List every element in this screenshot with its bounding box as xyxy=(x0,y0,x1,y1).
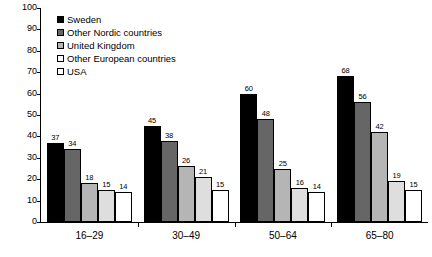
x-axis-tick-mark xyxy=(235,223,236,227)
x-axis-category-label: 65–80 xyxy=(331,230,428,242)
bar-value-label: 16 xyxy=(296,178,304,187)
bar[interactable] xyxy=(212,190,229,222)
legend-swatch-icon xyxy=(57,42,64,49)
y-axis-tick-mark xyxy=(37,136,40,137)
bar-item[interactable]: 56 xyxy=(354,8,371,222)
y-axis-tick-label: 50 xyxy=(27,109,37,120)
legend-item-label: United Kingdom xyxy=(67,40,135,51)
y-axis-tick-label: 30 xyxy=(27,152,37,163)
bar-item[interactable]: 48 xyxy=(257,8,274,222)
bar-group-bars: 6856421915 xyxy=(337,8,422,222)
legend-item[interactable]: Other European countries xyxy=(57,52,176,65)
y-axis-tick-label: 90 xyxy=(27,23,37,34)
y-axis-tick-mark xyxy=(37,115,40,116)
bar[interactable] xyxy=(98,190,115,222)
legend-item[interactable]: Sweden xyxy=(57,13,176,26)
y-axis-tick-label: 10 xyxy=(27,195,37,206)
x-axis-tick-mark xyxy=(331,223,332,227)
legend-swatch-icon xyxy=(57,16,64,23)
bar-value-label: 15 xyxy=(216,180,224,189)
bar-value-label: 38 xyxy=(165,131,173,140)
y-axis-tick-mark xyxy=(37,94,40,95)
bar-value-label: 68 xyxy=(341,66,349,75)
bar[interactable] xyxy=(291,188,308,222)
bar-item[interactable]: 19 xyxy=(388,8,405,222)
bar-value-label: 42 xyxy=(375,122,383,131)
bar[interactable] xyxy=(388,181,405,222)
bar[interactable] xyxy=(337,76,354,222)
bar-value-label: 25 xyxy=(279,159,287,168)
legend-item[interactable]: Other Nordic countries xyxy=(57,26,176,39)
bar-chart: 1009080706050403020100 37341815144538262… xyxy=(0,0,432,257)
legend-swatch-icon xyxy=(57,29,64,36)
y-axis-tick-mark xyxy=(37,179,40,180)
bar-group-bars: 6048251614 xyxy=(240,8,325,222)
y-axis-tick-mark xyxy=(37,8,40,9)
bar[interactable] xyxy=(81,183,98,222)
x-axis-category-label: 16–29 xyxy=(41,230,138,242)
y-axis-tick-label: 60 xyxy=(27,88,37,99)
y-axis-tick-label: 70 xyxy=(27,66,37,77)
bar-item[interactable]: 68 xyxy=(337,8,354,222)
bar-value-label: 26 xyxy=(182,156,190,165)
bar[interactable] xyxy=(257,119,274,222)
y-axis-tick-mark xyxy=(37,201,40,202)
bar-item[interactable]: 14 xyxy=(308,8,325,222)
bar[interactable] xyxy=(274,169,291,223)
y-axis-tick-mark xyxy=(37,158,40,159)
bar-item[interactable]: 16 xyxy=(291,8,308,222)
y-axis-ticks: 1009080706050403020100 xyxy=(0,0,46,257)
bar-value-label: 14 xyxy=(119,182,127,191)
y-axis-tick-label: 20 xyxy=(27,173,37,184)
legend-item-label: USA xyxy=(67,66,87,77)
bar[interactable] xyxy=(64,149,81,222)
legend-swatch-icon xyxy=(57,68,64,75)
bar-group: 6856421915 xyxy=(337,8,422,222)
legend-item-label: Sweden xyxy=(67,14,101,25)
x-axis-tick-mark xyxy=(138,223,139,227)
bar-value-label: 60 xyxy=(245,84,253,93)
legend-item-label: Other Nordic countries xyxy=(67,27,162,38)
y-axis-tick-label: 40 xyxy=(27,130,37,141)
bar-value-label: 48 xyxy=(262,109,270,118)
bar-item[interactable]: 26 xyxy=(178,8,195,222)
bar[interactable] xyxy=(308,192,325,222)
bar-value-label: 34 xyxy=(68,139,76,148)
bar-item[interactable]: 15 xyxy=(405,8,422,222)
bar-value-label: 15 xyxy=(102,180,110,189)
bar[interactable] xyxy=(115,192,132,222)
bar-group: 6048251614 xyxy=(240,8,325,222)
chart-legend: SwedenOther Nordic countriesUnited Kingd… xyxy=(57,13,176,78)
bar[interactable] xyxy=(405,190,422,222)
x-axis-category-label: 50–64 xyxy=(235,230,332,242)
bar[interactable] xyxy=(47,143,64,222)
bar-item[interactable]: 25 xyxy=(274,8,291,222)
y-axis-tick-label: 100 xyxy=(22,2,37,13)
bar[interactable] xyxy=(144,126,161,222)
bar[interactable] xyxy=(195,177,212,222)
bar-item[interactable]: 15 xyxy=(212,8,229,222)
bar[interactable] xyxy=(354,102,371,222)
bar-value-label: 56 xyxy=(358,92,366,101)
bar-value-label: 45 xyxy=(148,116,156,125)
y-axis-tick-label: 80 xyxy=(27,45,37,56)
legend-item-label: Other European countries xyxy=(67,53,176,64)
bar[interactable] xyxy=(178,166,195,222)
y-axis-tick-mark xyxy=(37,51,40,52)
legend-item[interactable]: USA xyxy=(57,65,176,78)
bar-value-label: 21 xyxy=(199,167,207,176)
y-axis-tick-mark xyxy=(37,72,40,73)
bar-item[interactable]: 60 xyxy=(240,8,257,222)
bar-item[interactable]: 42 xyxy=(371,8,388,222)
x-axis-category-label: 30–49 xyxy=(138,230,235,242)
bar-value-label: 19 xyxy=(392,171,400,180)
bar-value-label: 37 xyxy=(51,133,59,142)
bar-value-label: 18 xyxy=(85,173,93,182)
bar[interactable] xyxy=(161,141,178,222)
legend-item[interactable]: United Kingdom xyxy=(57,39,176,52)
bar-item[interactable]: 21 xyxy=(195,8,212,222)
bar-value-label: 15 xyxy=(409,180,417,189)
bar[interactable] xyxy=(371,132,388,222)
bar[interactable] xyxy=(240,94,257,222)
bar-value-label: 14 xyxy=(313,182,321,191)
